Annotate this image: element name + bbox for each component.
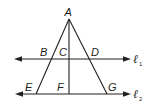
label-G: G	[108, 81, 117, 93]
arrow-left-icon	[15, 91, 23, 96]
geometry-diagram: A B C D E F G ℓ 1 ℓ 2	[0, 0, 150, 103]
segment-AG	[69, 19, 107, 94]
label-A: A	[64, 6, 72, 18]
svg-text:1: 1	[139, 61, 143, 67]
line-l1	[14, 56, 131, 61]
svg-text:ℓ: ℓ	[133, 52, 138, 66]
label-l1: ℓ 1	[133, 52, 143, 67]
arrow-right-icon	[123, 91, 131, 96]
label-l2: ℓ 2	[133, 87, 143, 102]
label-E: E	[25, 81, 33, 93]
svg-text:ℓ: ℓ	[133, 87, 138, 101]
arrow-right-icon	[123, 56, 131, 61]
arrow-left-icon	[14, 56, 22, 61]
label-D: D	[91, 46, 99, 58]
label-F: F	[57, 81, 65, 93]
label-C: C	[59, 46, 67, 58]
svg-text:2: 2	[139, 96, 143, 102]
label-B: B	[40, 46, 47, 58]
